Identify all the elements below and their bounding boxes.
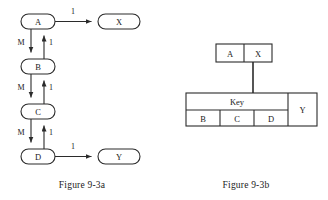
node-a[interactable]: A bbox=[21, 14, 55, 29]
bottom-table-cell-b: B bbox=[200, 114, 206, 124]
node-x-label: X bbox=[116, 17, 122, 27]
edge-label-a-to-x: 1 bbox=[71, 7, 75, 16]
bottom-table-cell-y: Y bbox=[299, 105, 305, 115]
edge-d-to-c: 1 bbox=[44, 126, 53, 150]
edge-b-to-c: M bbox=[17, 74, 31, 98]
figure-9-3b-caption: Figure 9-3b bbox=[164, 180, 328, 190]
top-table-cell-x: X bbox=[255, 49, 261, 59]
node-b-label: B bbox=[35, 62, 41, 72]
node-c[interactable]: C bbox=[21, 104, 55, 119]
edge-d-to-y: 1 bbox=[55, 142, 92, 157]
bottom-table-key-label: Key bbox=[230, 97, 245, 107]
bottom-table-cell-c: C bbox=[234, 114, 240, 124]
top-table: A X bbox=[216, 44, 272, 62]
edge-label-d-to-c: 1 bbox=[49, 128, 53, 137]
top-table-cell-a: A bbox=[227, 49, 234, 59]
edge-label-b-to-c: M bbox=[17, 83, 24, 92]
edge-a-to-x: 1 bbox=[55, 7, 92, 22]
node-b[interactable]: B bbox=[21, 59, 55, 74]
edge-a-to-b: M bbox=[17, 29, 31, 53]
figure-9-3b: A X Key B C D Y Fig bbox=[164, 0, 328, 200]
bottom-table: Key B C D Y bbox=[186, 93, 317, 126]
edge-label-b-to-a: 1 bbox=[49, 38, 53, 47]
figure-9-3a-canvas: M 1 M 1 M 1 bbox=[0, 0, 164, 178]
edge-label-a-to-b: M bbox=[17, 38, 24, 47]
edge-c-to-d: M bbox=[17, 119, 31, 143]
figure-9-3a: M 1 M 1 M 1 bbox=[0, 0, 164, 200]
edge-label-c-to-b: 1 bbox=[49, 83, 53, 92]
edge-b-to-a: 1 bbox=[44, 36, 53, 60]
figure-page: M 1 M 1 M 1 bbox=[0, 0, 328, 200]
node-c-label: C bbox=[35, 107, 41, 117]
node-y[interactable]: Y bbox=[98, 149, 140, 164]
figure-9-3b-canvas: A X Key B C D Y bbox=[164, 0, 328, 178]
figure-9-3a-caption: Figure 9-3a bbox=[0, 180, 164, 190]
node-a-label: A bbox=[35, 17, 42, 27]
node-y-label: Y bbox=[116, 152, 122, 162]
edge-c-to-b: 1 bbox=[44, 81, 53, 105]
node-x[interactable]: X bbox=[98, 14, 140, 29]
node-d-label: D bbox=[35, 152, 41, 162]
node-d[interactable]: D bbox=[21, 149, 55, 164]
edge-label-d-to-y: 1 bbox=[71, 142, 75, 151]
bottom-table-cell-d: D bbox=[268, 114, 274, 124]
edge-label-c-to-d: M bbox=[17, 128, 24, 137]
